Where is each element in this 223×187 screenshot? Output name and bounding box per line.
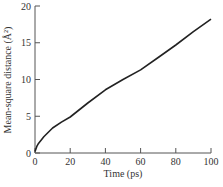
- y-tick-label: 0: [26, 148, 31, 159]
- y-axis-label: Mean-square distance (Å²): [2, 27, 14, 134]
- x-tick-label: 80: [171, 156, 181, 167]
- x-tick-label: 40: [100, 156, 110, 167]
- y-tick-label: 20: [21, 1, 31, 12]
- x-tick-label: 20: [65, 156, 75, 167]
- y-tick-label: 5: [26, 111, 31, 122]
- x-tick-label: 100: [204, 156, 219, 167]
- y-tick-label: 15: [21, 37, 31, 48]
- msd-series-line: [35, 19, 211, 151]
- x-tick-label: 60: [136, 156, 146, 167]
- msd-line-chart: 05101520 020406080100 Time (ps) Mean-squ…: [0, 0, 223, 187]
- y-axis-ticks: 05101520: [21, 1, 40, 159]
- x-axis-label: Time (ps): [104, 168, 143, 180]
- x-tick-label: 0: [33, 156, 38, 167]
- y-tick-label: 10: [21, 74, 31, 85]
- x-axis-ticks: 020406080100: [33, 148, 219, 167]
